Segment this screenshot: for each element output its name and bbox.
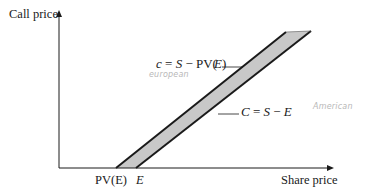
eq-minus: − — [273, 104, 280, 119]
x-axis-arrow-icon — [327, 165, 334, 171]
y-axis-label: Call price — [9, 8, 58, 21]
eq-s: S — [264, 104, 271, 119]
eq-c-upper: C — [241, 104, 250, 119]
line-american-bound — [136, 31, 311, 168]
note-american: American — [313, 103, 353, 111]
shaded-band — [116, 31, 311, 168]
eq-e: E — [284, 104, 292, 119]
eq-c: c — [156, 56, 162, 71]
eq-close: ) — [222, 56, 226, 71]
x-axis-label: Share price — [281, 174, 338, 187]
tick-pv-e: PV(E) — [95, 174, 127, 187]
eq-e: E — [214, 56, 222, 71]
label-lower-equation: C = S − E — [241, 105, 292, 118]
tick-e: E — [136, 174, 144, 187]
eq-minus: − — [185, 56, 192, 71]
eq-equals: = — [253, 104, 260, 119]
eq-s: S — [176, 56, 183, 71]
line-european-bound — [116, 32, 286, 168]
eq-equals: = — [165, 56, 172, 71]
label-upper-equation: c = S − PV(E) — [156, 57, 226, 70]
note-european: european — [149, 71, 189, 79]
option-bounds-diagram — [0, 0, 371, 193]
